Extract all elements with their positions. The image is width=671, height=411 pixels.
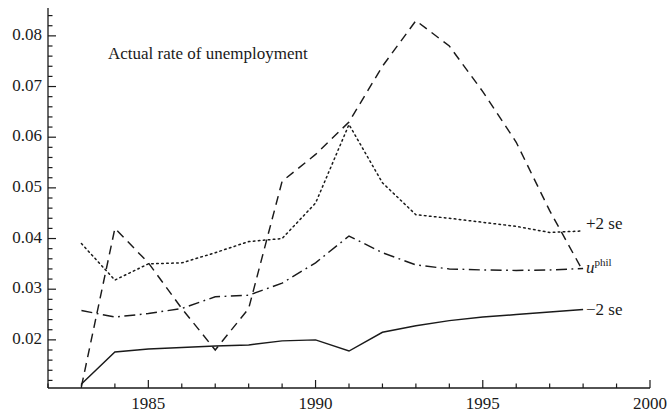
actual-rate-annotation: Actual rate of unemployment [108,44,308,64]
y-axis-ticks [48,16,56,381]
y-tick-label: 0.07 [0,76,42,96]
legend-label-minus-2-se: −2 se [586,300,623,320]
series-line-1 [81,125,583,281]
y-tick-label: 0.05 [0,177,42,197]
series-line-0 [81,21,583,387]
y-tick-label: 0.08 [0,25,42,45]
legend-label-plus-2-se: +2 se [586,214,623,234]
x-tick-label: 1990 [286,394,346,411]
y-tick-label: 0.06 [0,126,42,146]
legend-label-u-phil: uphil [586,256,612,278]
x-tick-label: 1995 [453,394,513,411]
x-tick-label: 2000 [620,394,671,411]
series-line-3 [81,309,583,383]
y-tick-label: 0.03 [0,278,42,298]
y-tick-label: 0.04 [0,228,42,248]
y-tick-label: 0.02 [0,329,42,349]
data-series-group [81,21,583,387]
axes [48,8,650,388]
u-phil-base: u [586,258,595,277]
x-axis-ticks [48,380,650,388]
u-phil-superscript: phil [595,256,612,268]
series-line-2 [81,236,583,317]
x-tick-label: 1985 [118,394,178,411]
